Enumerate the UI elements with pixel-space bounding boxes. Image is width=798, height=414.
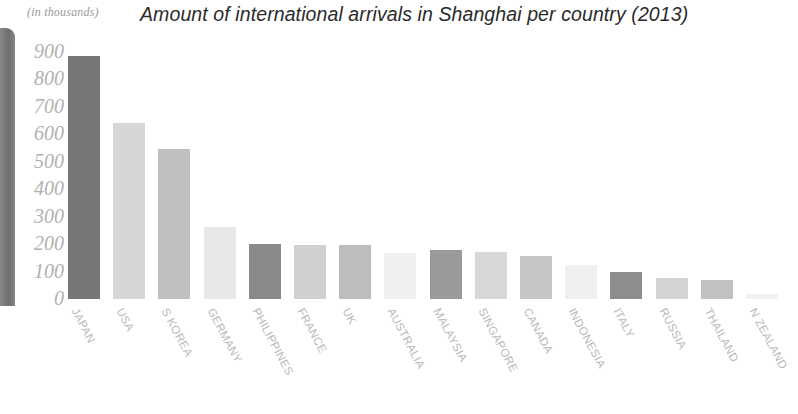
- category-label-text: UK: [341, 306, 359, 326]
- category-label-text: PHILIPPINES: [250, 306, 295, 377]
- category-label-text: CANADA: [521, 306, 555, 356]
- category-label-text: AUSTRALIA: [386, 306, 428, 370]
- category-label-text: INDONESIA: [567, 306, 609, 370]
- bar-chart-plot-area: 9008007006005004003002001000 JAPANUSAS K…: [0, 0, 798, 414]
- category-label-text: THAILAND: [702, 306, 740, 364]
- category-label-text: JAPAN: [69, 306, 97, 345]
- category-label-text: N ZEALAND: [747, 306, 789, 371]
- category-label-text: S KOREA: [160, 306, 196, 359]
- category-label-text: ITALY: [612, 306, 638, 340]
- category-label-text: USA: [115, 306, 137, 333]
- category-label-text: GERMANY: [205, 306, 244, 365]
- category-label-text: RUSSIA: [657, 306, 689, 351]
- category-label-text: MALAYSIA: [431, 306, 469, 364]
- category-label-text: SINGAPORE: [476, 306, 520, 374]
- category-label-text: FRANCE: [295, 306, 329, 355]
- x-axis-category-labels: JAPANUSAS KOREAGERMANYPHILIPPINESFRANCEU…: [0, 0, 798, 414]
